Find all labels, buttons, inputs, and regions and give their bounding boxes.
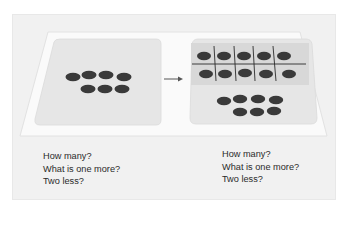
question-one-more: What is one more? — [222, 161, 299, 174]
counter — [217, 52, 231, 60]
counter — [197, 52, 211, 60]
question-one-more: What is one more? — [43, 163, 120, 176]
counter — [82, 71, 97, 79]
counter — [199, 70, 213, 78]
counter — [99, 71, 114, 79]
counter — [259, 70, 273, 78]
counter — [267, 107, 281, 115]
counter — [282, 70, 296, 78]
counter — [251, 95, 265, 103]
counter — [269, 96, 283, 104]
counter — [115, 85, 130, 93]
left-questions: How many? What is one more? Two less? — [43, 150, 120, 188]
ten-frame — [191, 43, 309, 85]
question-two-less: Two less? — [222, 173, 299, 186]
counter — [117, 73, 132, 81]
counter — [237, 52, 251, 60]
counter — [81, 85, 96, 93]
counter — [238, 69, 252, 77]
right-card — [190, 39, 317, 124]
counter — [66, 73, 81, 81]
counter — [250, 108, 264, 116]
left-card — [35, 39, 161, 125]
question-how-many: How many? — [222, 148, 299, 161]
question-how-many: How many? — [43, 150, 120, 163]
counter — [257, 52, 271, 60]
counter — [233, 95, 247, 103]
question-two-less: Two less? — [43, 175, 120, 188]
right-questions: How many? What is one more? Two less? — [222, 148, 299, 186]
counter — [217, 97, 231, 105]
counter — [277, 52, 291, 60]
counter — [233, 108, 247, 116]
counter — [98, 85, 113, 93]
counter — [218, 70, 232, 78]
